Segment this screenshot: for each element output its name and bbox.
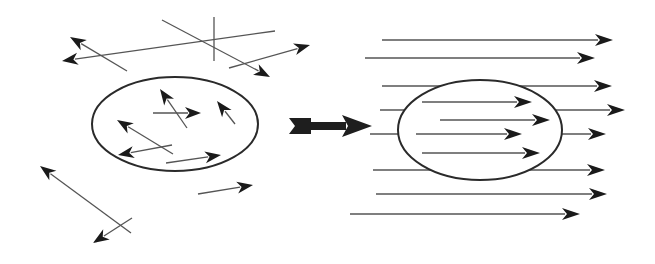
domain-alignment-diagram [0,0,655,264]
arrow-shaft [307,122,346,130]
right-domain-boundary [398,80,562,180]
